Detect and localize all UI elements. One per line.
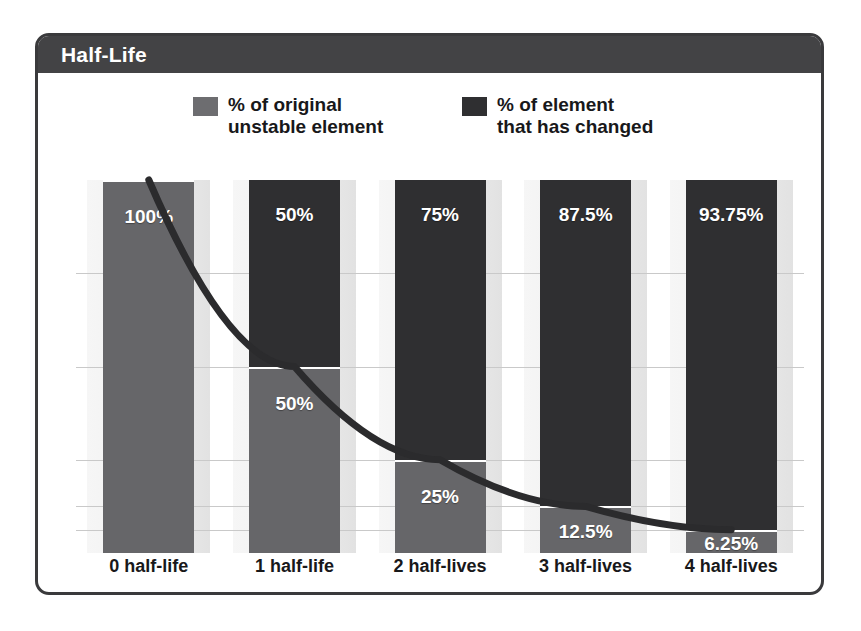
- legend-item-original: % of original unstable element: [193, 94, 383, 138]
- title-bar: Half-Life: [38, 36, 821, 73]
- chart-frame: Half-Life % of original unstable element…: [35, 33, 824, 595]
- legend-swatch-changed-icon: [462, 97, 487, 116]
- x-axis-tick-label: 4 half-lives: [658, 556, 804, 577]
- decay-curve: [76, 180, 804, 553]
- plot-area: 100%50%50%75%25%87.5%12.5%93.75%6.25%: [76, 180, 804, 553]
- chart-page: Half-Life % of original unstable element…: [0, 0, 861, 631]
- x-axis-tick-label: 1 half-life: [222, 556, 368, 577]
- legend-label-original: % of original unstable element: [228, 94, 383, 138]
- chart-legend: % of original unstable element % of elem…: [38, 88, 821, 154]
- legend-item-changed: % of element that has changed: [462, 94, 653, 138]
- page-title: Half-Life: [61, 43, 147, 67]
- legend-label-changed: % of element that has changed: [497, 94, 653, 138]
- decay-curve-path: [149, 180, 731, 530]
- x-axis: 0 half-life1 half-life2 half-lives3 half…: [76, 556, 804, 590]
- legend-swatch-original-icon: [193, 97, 218, 116]
- x-axis-tick-label: 3 half-lives: [513, 556, 659, 577]
- x-axis-tick-label: 0 half-life: [76, 556, 222, 577]
- x-axis-tick-label: 2 half-lives: [367, 556, 513, 577]
